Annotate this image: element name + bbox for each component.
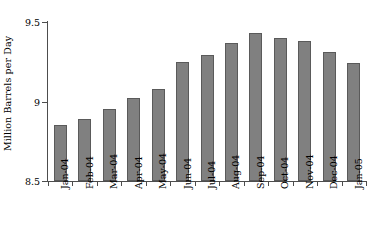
x-axis-tick <box>97 181 98 186</box>
x-axis-label-text: Aug-04 <box>230 155 241 189</box>
x-axis-label-text: Jan-05 <box>353 158 364 189</box>
x-axis-label-text: Sep-04 <box>255 155 266 189</box>
y-axis-title-text: Million Barrels per Day <box>3 35 14 150</box>
x-axis-label-text: Dec-04 <box>328 155 339 189</box>
x-axis-tick <box>366 181 367 186</box>
y-axis-tick-label: 8.5 <box>14 176 40 187</box>
y-axis-tick-label: 9 <box>14 96 40 107</box>
x-axis-label-text: May-04 <box>157 153 168 189</box>
x-axis-tick <box>342 181 343 186</box>
x-axis-tick <box>195 181 196 186</box>
x-axis-tick <box>293 181 294 186</box>
x-axis-label-text: Jan-04 <box>59 158 70 189</box>
x-axis-tick <box>48 181 49 186</box>
x-axis-label-text: Mar-04 <box>108 154 119 189</box>
y-axis-tick-label: 9.5 <box>14 17 40 28</box>
x-axis-tick <box>170 181 171 186</box>
x-axis-tick <box>219 181 220 186</box>
x-axis-tick <box>72 181 73 186</box>
x-axis-label-text: Apr-04 <box>133 156 144 189</box>
y-axis-tick <box>42 102 48 103</box>
y-axis-title: Million Barrels per Day <box>0 0 16 186</box>
x-axis-label-text: Jun-04 <box>182 158 193 189</box>
x-axis-label-text: Jul-04 <box>206 161 217 189</box>
bar-chart: Million Barrels per Day 8.599.5 Jan-04Fe… <box>0 0 376 232</box>
x-axis-tick <box>317 181 318 186</box>
x-axis-label-text: Feb-04 <box>84 156 95 189</box>
x-axis-label-text: Oct-04 <box>279 157 290 189</box>
x-axis-tick <box>268 181 269 186</box>
x-axis-label-text: Nov-04 <box>304 154 315 189</box>
x-axis-tick <box>121 181 122 186</box>
y-axis-tick <box>42 22 48 23</box>
x-axis-tick <box>244 181 245 186</box>
x-axis-tick <box>146 181 147 186</box>
